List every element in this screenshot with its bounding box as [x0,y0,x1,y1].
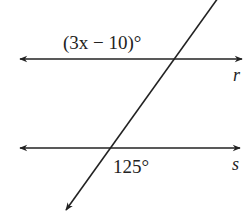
diagram-canvas: r s (3x − 10)° 125° [0,0,245,213]
line-r-label: r [233,65,241,85]
line-s-label: s [232,154,239,174]
angle-label-s: 125° [113,156,149,177]
angle-label-r: (3x − 10)° [63,32,141,54]
